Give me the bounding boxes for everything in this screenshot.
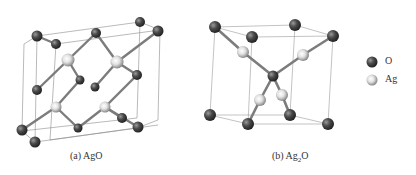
ago-oxygen-atoms	[17, 17, 164, 148]
caption-ag2o-suffix: O	[301, 150, 308, 161]
legend-silver-swatch	[367, 75, 378, 86]
legend	[367, 57, 378, 86]
ag2o-structure	[204, 19, 339, 130]
ago-bonds	[22, 31, 158, 130]
caption-ag2o: (b) Ag2O	[272, 150, 309, 164]
legend-label-oxygen: O	[385, 55, 392, 66]
ago-structure	[17, 17, 164, 148]
caption-ago: (a) AgO	[70, 150, 103, 161]
legend-label-silver: Ag	[385, 73, 397, 84]
crystal-structures-figure	[0, 0, 416, 175]
caption-ag2o-prefix: (b) Ag	[272, 150, 298, 161]
legend-oxygen-swatch	[367, 57, 378, 68]
ago-silver-atoms	[51, 54, 124, 113]
